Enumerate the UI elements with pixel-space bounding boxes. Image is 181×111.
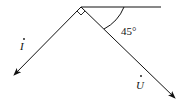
voltage-vector [81, 7, 175, 98]
diagram-svg: 45° I U [0, 0, 181, 111]
current-vector [14, 7, 81, 75]
right-angle-marker [77, 11, 85, 15]
voltage-label: U [136, 79, 145, 91]
angle-label: 45° [121, 25, 136, 37]
phasor-diagram: 45° I U [0, 0, 181, 111]
current-label: I [19, 40, 25, 52]
voltage-dot [140, 75, 142, 77]
